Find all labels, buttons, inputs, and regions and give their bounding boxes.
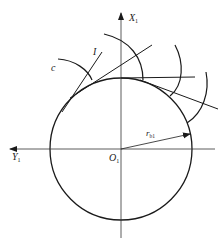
involute-curve-c	[58, 59, 92, 80]
tangent-line-top	[121, 77, 195, 78]
x1-axis-label: X1	[128, 12, 138, 24]
involute-curve-3	[187, 72, 207, 123]
involute-curve-2	[170, 45, 181, 96]
radius-arrow	[121, 134, 190, 149]
involute-diagram: X1 Y1 O1 rb1 c I	[0, 0, 221, 238]
tangent-line-upper-left	[70, 45, 152, 98]
curve-c-label: c	[51, 62, 56, 73]
involute-curve-1	[104, 34, 143, 80]
line-I-label: I	[92, 46, 97, 57]
origin-label: O1	[109, 152, 119, 164]
radius-label: rb1	[146, 128, 155, 139]
y1-axis-label: Y1	[12, 151, 21, 163]
